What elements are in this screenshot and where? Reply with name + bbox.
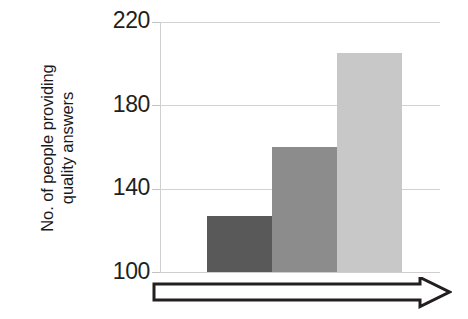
tickmark-100 <box>152 272 160 273</box>
gridline-100-baseline <box>160 272 440 273</box>
gridline-220 <box>160 22 440 23</box>
tickmark-140 <box>152 189 160 190</box>
y-tick-label-100: 100 <box>88 260 150 283</box>
y-axis-title-line-1: No. of people providing <box>37 64 57 231</box>
y-tick-label-140: 140 <box>88 176 150 199</box>
tickmark-220 <box>152 22 160 23</box>
tickmark-180 <box>152 105 160 106</box>
trend-arrow-svg <box>152 277 452 309</box>
bar-3 <box>337 53 402 272</box>
arrow-shape <box>154 278 450 307</box>
bar-chart-figure: No. of people providing quality answers … <box>0 0 468 319</box>
y-axis-title-line-2: quality answers <box>57 92 77 204</box>
bar-1 <box>207 216 272 272</box>
y-axis-line <box>160 22 161 273</box>
plot-area <box>160 22 440 273</box>
y-tick-label-180: 180 <box>88 93 150 116</box>
increasing-trend-arrow <box>152 277 452 309</box>
y-axis-title: No. of people providing quality answers <box>27 18 87 278</box>
y-axis-tick-labels: 220 180 140 100 <box>88 0 150 319</box>
bar-2 <box>272 147 337 272</box>
y-tick-label-220: 220 <box>88 9 150 32</box>
